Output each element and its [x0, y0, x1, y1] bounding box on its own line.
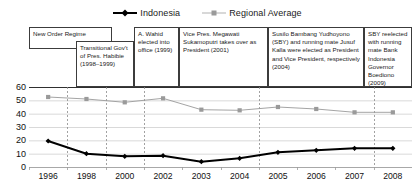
data-point-1996 — [46, 138, 51, 143]
data-point-2000 — [123, 100, 127, 104]
data-point-2008 — [391, 110, 395, 114]
x-tick-label-2005: 2005 — [268, 171, 287, 181]
data-point-1996 — [46, 95, 50, 99]
data-point-2003 — [199, 159, 204, 164]
x-tick-label-2000: 2000 — [115, 171, 134, 181]
x-tick-label-2004: 2004 — [230, 171, 249, 181]
chart-figure: Indonesia Regional Average New Order Reg… — [0, 0, 415, 193]
x-tick-label-2006: 2006 — [307, 171, 326, 181]
y-tick-label-40: 40 — [2, 109, 26, 119]
x-tick-label-2007: 2007 — [345, 171, 364, 181]
y-tick-label-10: 10 — [2, 149, 26, 159]
data-point-2008 — [390, 146, 395, 151]
plot-area — [29, 87, 412, 167]
x-tick-label-2002: 2002 — [153, 171, 172, 181]
data-point-2006 — [314, 148, 319, 153]
x-tick-label-1996: 1996 — [39, 171, 58, 181]
x-tick-label-2003: 2003 — [192, 171, 211, 181]
legend-label-regional-average: Regional Average — [229, 8, 302, 18]
data-point-2004 — [237, 156, 242, 161]
annotation-band: New Order RegimeTransitional Gov't of Pr… — [29, 27, 412, 87]
data-point-2002 — [161, 96, 165, 100]
chart-svg — [29, 87, 412, 171]
y-tick-label-20: 20 — [2, 135, 26, 145]
data-point-2007 — [352, 146, 357, 151]
data-point-1998 — [84, 151, 89, 156]
regional-average-line-marker-icon — [202, 9, 226, 18]
series-line — [48, 97, 393, 112]
series-line — [48, 141, 393, 162]
data-point-1998 — [84, 97, 88, 101]
y-axis-labels: 0102030405060 — [0, 87, 26, 167]
data-point-2007 — [352, 110, 356, 114]
legend-label-indonesia: Indonesia — [140, 8, 180, 18]
y-tick-label-60: 60 — [2, 82, 26, 92]
annotation-sby-reelected: SBY reelected with running mate Bank Ind… — [364, 27, 412, 87]
data-point-2004 — [238, 108, 242, 112]
data-point-2005 — [276, 105, 280, 109]
annotation-transitional-govt-habibie: Transitional Gov't of Pres. Habibie (199… — [76, 41, 134, 87]
y-tick-label-50: 50 — [2, 95, 26, 105]
x-tick-label-1998: 1998 — [77, 171, 96, 181]
legend-item-regional-average: Regional Average — [202, 8, 302, 18]
chart-legend: Indonesia Regional Average — [0, 4, 415, 22]
annotation-megawati-president: Vice Pres. Megawati Sukamoputri takes ov… — [179, 27, 268, 87]
y-tick-label-30: 30 — [2, 122, 26, 132]
annotation-wahid-elected: A. Wahid elected into office (1999) — [134, 27, 179, 87]
series-indonesia — [46, 138, 396, 164]
data-point-2003 — [199, 108, 203, 112]
series-regional-average — [46, 95, 395, 115]
x-tick-label-2008: 2008 — [383, 171, 402, 181]
annotation-sby-elected: Susilo Bambang Yudhoyono (SBY) and runni… — [268, 27, 364, 87]
y-tick-label-0: 0 — [2, 162, 26, 172]
data-point-2006 — [314, 107, 318, 111]
indonesia-line-marker-icon — [113, 9, 137, 18]
x-axis-labels: 1996199820002002200320042005200620072008 — [29, 170, 412, 186]
legend-item-indonesia: Indonesia — [113, 8, 180, 18]
